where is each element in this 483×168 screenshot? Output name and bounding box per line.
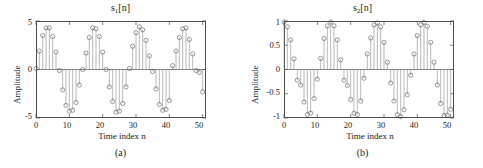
panel-b-xtick-4: 40 (405, 120, 423, 130)
panel-a-xtick-5: 50 (190, 120, 208, 130)
panel-a-stem-plot (0, 0, 241, 168)
panel-a-xlabel: Time index n (66, 131, 178, 141)
panel-a-xtick-3: 30 (124, 120, 142, 130)
panel-b-stem-plot (242, 0, 483, 168)
figure-root: s1[n] Amplitude 5 0 -5 0 10 20 30 40 50 … (0, 0, 483, 168)
panel-b-xtick-0: 0 (275, 120, 293, 130)
panel-a-caption: (a) (0, 147, 241, 158)
panel-a-xtick-4: 40 (157, 120, 175, 130)
panel-a-xtick-2: 20 (91, 120, 109, 130)
panel-a-xtick-1: 10 (58, 120, 76, 130)
panel-a-xtick-0: 0 (27, 120, 45, 130)
panel-b: s2[n] Amplitude 1 0.5 0 -0.5 -1 0 10 20 … (242, 0, 483, 168)
panel-b-xtick-3: 30 (372, 120, 390, 130)
panel-b-xlabel: Time index n (314, 131, 426, 141)
panel-b-xtick-2: 20 (339, 120, 357, 130)
panel-a: s1[n] Amplitude 5 0 -5 0 10 20 30 40 50 … (0, 0, 241, 168)
panel-b-xtick-5: 50 (438, 120, 456, 130)
panel-b-caption: (b) (242, 147, 483, 158)
panel-b-xtick-1: 10 (306, 120, 324, 130)
